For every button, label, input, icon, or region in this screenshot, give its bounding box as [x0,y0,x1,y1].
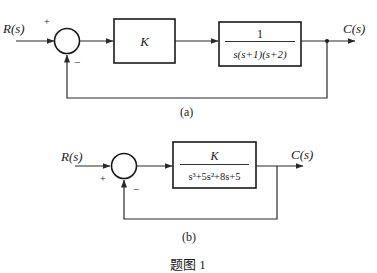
plant-denominator-b: s³+5s²+8s+5 [188,171,240,182]
plant-denominator-a: s(s+1)(s+2) [233,48,287,61]
plant-numerator-b: K [209,149,219,163]
output-label-a: C(s) [343,21,365,36]
plus-sign-a: + [44,16,50,27]
diagram-b: R(s) + − K s³+5s²+8s+5 C(s) [60,142,313,219]
summing-junction-b [112,154,137,179]
minus-sign-a: − [74,56,80,68]
plant-numerator-a: 1 [257,27,263,41]
diagram-a-label: (a) [180,105,193,120]
summing-junction-a [55,29,80,54]
gain-block-a-text: K [139,34,150,49]
input-label-b: R(s) [60,149,83,164]
figure-caption: 题图 1 [170,254,206,273]
diagram-a: R(s) + − K 1 s(s+1)(s+2) C(s) [2,16,365,98]
diagram-b-label: (b) [182,230,196,245]
input-label-a: R(s) [2,21,25,36]
output-label-b: C(s) [291,147,313,162]
minus-sign-b: − [133,183,139,195]
plus-sign-b: + [100,173,106,184]
